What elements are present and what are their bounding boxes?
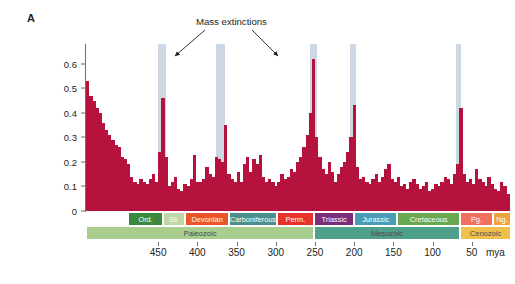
geologic-eras-band: PaleozoicMesozoicCenozoic <box>86 226 511 240</box>
x-tick-label: 350 <box>228 247 245 258</box>
x-tick-label: 100 <box>424 247 441 258</box>
y-tick-label: 0.5 <box>64 83 77 94</box>
y-tick-label: 0.2 <box>64 156 77 167</box>
era-paleozoic: Paleozoic <box>86 226 314 240</box>
x-tick-label: 450 <box>150 247 167 258</box>
period-label: Perm. <box>285 215 305 224</box>
period-label: Ord. <box>138 215 152 224</box>
period-devonian: Devonian <box>185 212 230 226</box>
x-tick-label: 300 <box>267 247 284 258</box>
era-cenozoic: Cenozoic <box>460 226 511 240</box>
x-tick-mark <box>237 242 238 246</box>
period-label: Jurassic <box>362 215 389 224</box>
era-label: Paleozoic <box>184 229 217 238</box>
period-carboniferous: Carboniferous <box>229 212 276 226</box>
period-label: Ng. <box>496 215 508 224</box>
x-tick-label: 200 <box>346 247 363 258</box>
period-pg: Pg. <box>460 212 493 226</box>
period-cretaceous: Cretaceous <box>397 212 460 226</box>
x-tick-label: 50 <box>466 247 477 258</box>
x-tick-mark <box>276 242 277 246</box>
y-tick-label: 0.4 <box>64 107 77 118</box>
x-tick-label: 250 <box>307 247 324 258</box>
panel-label: A <box>27 12 35 24</box>
x-tick-mark <box>393 242 394 246</box>
x-tick-mark <box>433 242 434 246</box>
y-tick-label: 0.3 <box>64 132 77 143</box>
period-ng: Ng. <box>493 212 511 226</box>
x-tick-mark <box>315 242 316 246</box>
extinction-rate-figure: A Percentage of genera becoming extinct … <box>0 0 515 284</box>
x-tick-mark <box>472 242 473 246</box>
x-tick-mark <box>197 242 198 246</box>
bar <box>86 201 89 211</box>
period-label: Triassic <box>322 215 347 224</box>
y-tick-label: 0.6 <box>64 58 77 69</box>
x-tick-label: 400 <box>189 247 206 258</box>
era-label: Mesozoic <box>371 229 403 238</box>
era-label: Cenozoic <box>470 229 502 238</box>
period-label: Devonian <box>192 215 223 224</box>
period-label: Carboniferous <box>230 215 276 224</box>
x-axis-unit-label: mya <box>486 247 505 258</box>
x-tick-label: 150 <box>385 247 402 258</box>
period-sil: Sil. <box>163 212 185 226</box>
bar <box>506 194 509 211</box>
period-triassic: Triassic <box>314 212 354 226</box>
period-label: Sil. <box>169 215 179 224</box>
y-tick-label: 0.1 <box>64 181 77 192</box>
period-label: Cretaceous <box>410 215 448 224</box>
period-ord: Ord. <box>128 212 163 226</box>
period-perm: Perm. <box>277 212 315 226</box>
plot-area <box>86 44 511 211</box>
period-label: Pg. <box>471 215 482 224</box>
mass-extinctions-label: Mass extinctions <box>196 16 267 27</box>
x-tick-mark <box>158 242 159 246</box>
geologic-periods-band: Ord.Sil.DevonianCarboniferousPerm.Triass… <box>86 212 511 226</box>
y-tick-label: 0 <box>72 206 77 217</box>
era-mesozoic: Mesozoic <box>314 226 460 240</box>
x-tick-mark <box>354 242 355 246</box>
period-jurassic: Jurassic <box>354 212 397 226</box>
